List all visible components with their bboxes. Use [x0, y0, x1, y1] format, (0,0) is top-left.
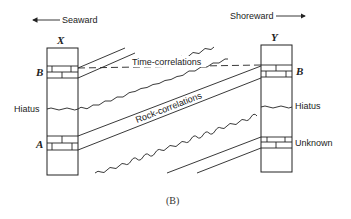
shoreward-label: Shoreward — [230, 11, 274, 21]
figure-caption: (B) — [166, 195, 179, 207]
hiatus-label-y: Hiatus — [295, 101, 321, 111]
column-x: X B Hiatus A — [14, 34, 78, 175]
rock-correlations-label: Rock-correlations — [134, 90, 203, 125]
column-y-body — [261, 45, 292, 172]
correlation-diagram: Seaward Shoreward — [0, 0, 351, 219]
time-correlations-label: Time-correlations — [132, 57, 202, 67]
bedding-line — [78, 53, 135, 78]
bed-b-label-x: B — [35, 66, 43, 78]
column-y: Y B Hiatus Unknown — [261, 31, 333, 172]
column-y-label: Y — [271, 31, 279, 43]
rock-correlation-line — [78, 78, 261, 150]
shoreward-indicator: Shoreward — [230, 11, 305, 21]
hiatus-label-x: Hiatus — [14, 104, 40, 114]
bedding-line — [197, 148, 261, 173]
column-x-label: X — [56, 34, 65, 46]
seaward-label: Seaward — [62, 15, 98, 25]
bed-b-label-y: B — [295, 65, 303, 77]
unconformity-line-lower — [95, 114, 257, 173]
bedding-line — [78, 48, 125, 68]
bed-a-label-x: A — [35, 138, 43, 150]
seaward-indicator: Seaward — [33, 15, 98, 25]
unknown-label-y: Unknown — [295, 138, 333, 148]
